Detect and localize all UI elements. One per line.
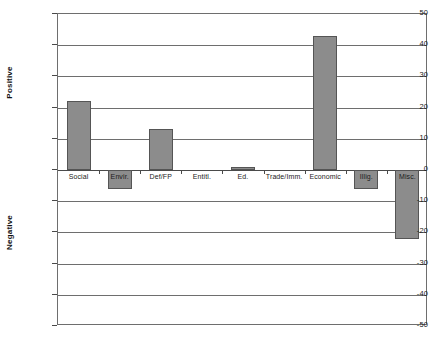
category-label: Illig. — [346, 173, 387, 181]
y-tick-mark — [52, 231, 57, 232]
y-tick-label: 30 — [419, 71, 428, 79]
category-label: Misc. — [387, 173, 428, 181]
category-label: Trade/Imm. — [264, 173, 305, 181]
y-tick-mark — [52, 325, 57, 326]
plot-area: SocialEnvir.Def/FPEntitl.Ed.Trade/Imm.Ec… — [57, 13, 427, 325]
y-tick-mark — [52, 263, 57, 264]
y-tick-mark — [52, 75, 57, 76]
category-labels: SocialEnvir.Def/FPEntitl.Ed.Trade/Imm.Ec… — [58, 14, 426, 324]
y-tick-mark — [52, 138, 57, 139]
category-label: Social — [58, 173, 99, 181]
y-tick-mark — [52, 107, 57, 108]
category-label: Entitl. — [181, 173, 222, 181]
y-tick-mark — [52, 44, 57, 45]
y-tick-label: -50 — [417, 321, 428, 329]
category-label: Def/FP — [140, 173, 181, 181]
y-tick-mark — [52, 169, 57, 170]
category-label: Envir. — [99, 173, 140, 181]
y-tick-label: -40 — [417, 290, 428, 298]
y-tick-label: 10 — [419, 134, 428, 142]
y-axis-title-negative: Negative — [5, 208, 14, 258]
y-tick-label: 0 — [424, 165, 428, 173]
y-axis-title-positive: Positive — [5, 60, 14, 106]
category-label: Economic — [305, 173, 346, 181]
category-label: Ed. — [222, 173, 263, 181]
y-tick-label: -30 — [417, 259, 428, 267]
y-tick-mark — [52, 294, 57, 295]
y-tick-label: -20 — [417, 227, 428, 235]
y-tick-mark — [52, 200, 57, 201]
y-tick-mark — [52, 13, 57, 14]
bar-chart: SocialEnvir.Def/FPEntitl.Ed.Trade/Imm.Ec… — [0, 0, 436, 340]
y-tick-label: 20 — [419, 103, 428, 111]
y-tick-label: 50 — [419, 9, 428, 17]
y-tick-label: 40 — [419, 40, 428, 48]
y-tick-label: -10 — [417, 196, 428, 204]
